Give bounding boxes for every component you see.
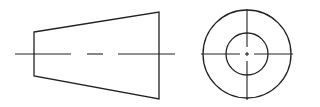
front-view <box>15 12 175 99</box>
frustum-outline <box>34 12 159 99</box>
crosshair-center-lines <box>201 9 293 100</box>
side-view <box>201 9 293 100</box>
drawing-canvas <box>0 0 320 107</box>
